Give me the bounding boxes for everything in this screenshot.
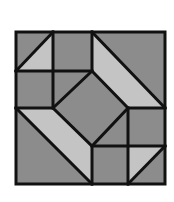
top-square-piece (53, 32, 92, 71)
left-square-piece (16, 71, 53, 108)
quilt-block-diagram (0, 0, 174, 202)
right-square-piece (128, 108, 165, 146)
bottom-square-piece (92, 146, 128, 184)
